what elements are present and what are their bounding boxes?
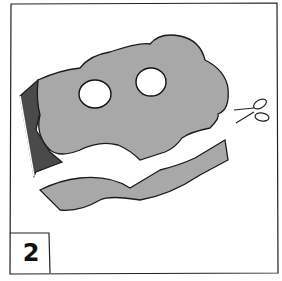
scissors-icon bbox=[234, 97, 270, 123]
mask-eye-hole-right bbox=[136, 68, 166, 96]
mask-shape bbox=[37, 35, 228, 160]
step-number: 2 bbox=[13, 236, 49, 269]
illustration-panel: 2 bbox=[0, 0, 282, 281]
mask-eye-hole-left bbox=[79, 80, 111, 108]
